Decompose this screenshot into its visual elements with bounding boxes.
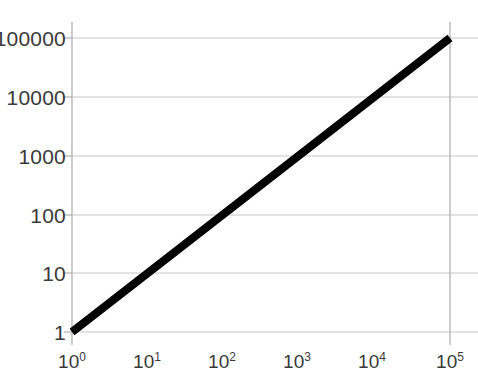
- x-axis-label-1e4: 104: [348, 352, 396, 371]
- x-axis-label-1e1: 101: [123, 352, 171, 371]
- y-axis-label-1000: 1000: [18, 146, 66, 167]
- x-axis-label-1e5-exponent: 5: [457, 350, 464, 364]
- x-axis-label-1e4-exponent: 4: [379, 350, 386, 364]
- x-axis-label-1e4-mantissa: 10: [358, 351, 379, 372]
- log-log-chart: 100000 10000 1000 100 10 1 100 101 102 1…: [0, 0, 478, 377]
- plot-area: [0, 0, 478, 377]
- x-axis-label-1e5: 105: [426, 352, 474, 371]
- x-axis-label-1e5-mantissa: 10: [436, 351, 457, 372]
- x-axis-label-1e0: 100: [48, 352, 96, 371]
- y-axis-label-10: 10: [42, 263, 66, 284]
- y-axis-label-100000: 100000: [0, 28, 66, 49]
- y-axis-label-1: 1: [54, 322, 66, 343]
- y-axis-label-10000: 10000: [7, 87, 66, 108]
- x-axis-label-1e1-exponent: 1: [154, 350, 161, 364]
- x-axis-label-1e3-mantissa: 10: [283, 351, 304, 372]
- x-axis-label-1e3: 103: [273, 352, 321, 371]
- x-axis-label-1e0-exponent: 0: [79, 350, 86, 364]
- x-axis-label-1e2: 102: [198, 352, 246, 371]
- x-axis-label-1e2-exponent: 2: [229, 350, 236, 364]
- x-axis-label-1e1-mantissa: 10: [133, 351, 154, 372]
- x-axis-label-1e3-exponent: 3: [304, 350, 311, 364]
- x-axis-label-1e0-mantissa: 10: [58, 351, 79, 372]
- y-axis-label-100: 100: [30, 205, 66, 226]
- y-tick-marks: [64, 38, 72, 332]
- x-axis-label-1e2-mantissa: 10: [208, 351, 229, 372]
- series-line-identity: [72, 38, 450, 332]
